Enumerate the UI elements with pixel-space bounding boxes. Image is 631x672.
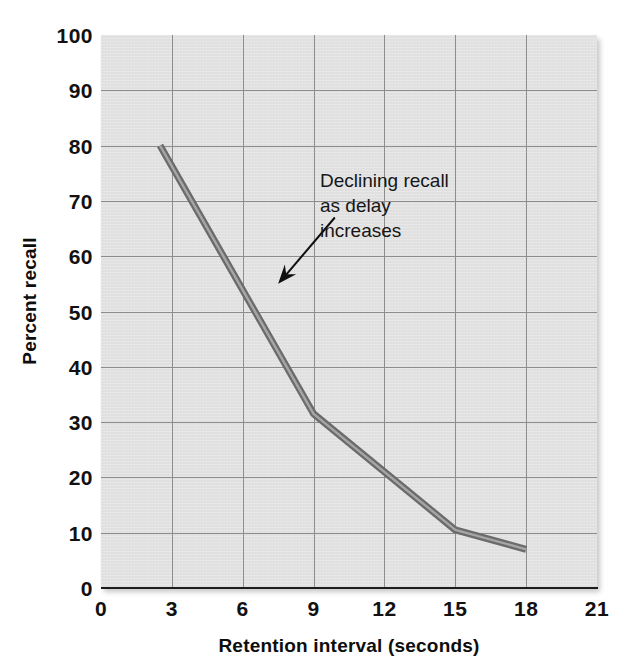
chart-overlay xyxy=(0,0,631,672)
annotation-label: Declining recall as delay increases xyxy=(320,168,449,243)
chart-figure: 1009080706050403020100 036912151821 Rete… xyxy=(0,0,631,672)
